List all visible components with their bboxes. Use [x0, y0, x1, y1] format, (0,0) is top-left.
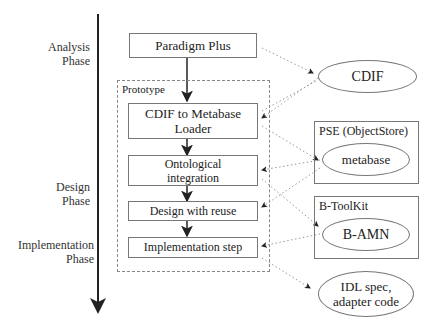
tool-group-title: PSE (ObjectStore) — [319, 124, 408, 139]
step-ontological-integration[interactable]: Ontological integration — [128, 155, 258, 186]
step-label: CDIF to Metabase — [145, 106, 241, 121]
phase-label-analysis: Analysis Phase — [20, 40, 90, 68]
step-label: Loader — [175, 121, 212, 136]
step-paradigm-plus[interactable]: Paradigm Plus — [129, 33, 257, 58]
tool-item-b-amn[interactable]: B-AMN — [322, 218, 410, 251]
phase-label-line: Phase — [10, 252, 94, 266]
step-label: Paradigm Plus — [155, 38, 230, 53]
artifact-cdif[interactable]: CDIF — [318, 60, 417, 93]
step-implementation[interactable]: Implementation step — [128, 237, 258, 258]
step-label: integration — [167, 171, 219, 185]
step-label: Ontological — [165, 157, 222, 171]
step-label: Design with reuse — [150, 204, 237, 219]
step-design-with-reuse[interactable]: Design with reuse — [128, 201, 258, 221]
tool-group-title: B-ToolKit — [319, 199, 368, 214]
tool-item-metabase[interactable]: metabase — [322, 143, 410, 176]
tool-item-label: B-AMN — [343, 227, 390, 243]
phase-label-design: Design Phase — [20, 180, 90, 208]
tool-item-label: metabase — [342, 152, 390, 168]
prototype-title: Prototype — [122, 83, 165, 95]
phase-label-line: Analysis — [20, 40, 90, 54]
phase-label-line: Design — [20, 180, 90, 194]
artifact-label: CDIF — [352, 69, 384, 85]
phase-label-implementation: Implementation Phase — [10, 238, 94, 266]
artifact-label: IDL spec, — [341, 279, 392, 294]
artifact-idl-spec[interactable]: IDL spec, adapter code — [318, 271, 414, 317]
step-cdif-loader[interactable]: CDIF to Metabase Loader — [128, 103, 258, 139]
artifact-label: adapter code — [333, 294, 399, 309]
phase-label-line: Phase — [20, 54, 90, 68]
step-label: Implementation step — [144, 240, 242, 255]
phase-label-line: Phase — [20, 194, 90, 208]
phase-label-line: Implementation — [10, 238, 94, 252]
